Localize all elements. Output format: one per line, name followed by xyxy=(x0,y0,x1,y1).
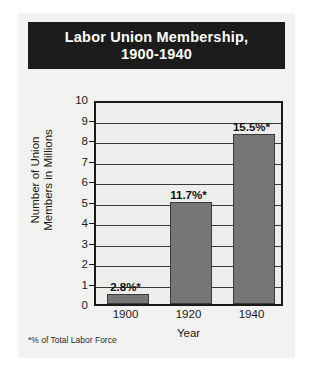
y-axis-tick-label: 7 xyxy=(70,157,88,169)
bar-value-label: 15.5%* xyxy=(220,121,283,133)
y-axis-tick-label: 1 xyxy=(70,280,88,292)
bar xyxy=(107,294,149,304)
bar-chart: Number of Union Members in Millions 1098… xyxy=(18,75,295,358)
y-axis-title-line-1: Number of Union xyxy=(29,120,42,240)
x-axis-tick-label: 1920 xyxy=(157,309,220,321)
y-axis-title-line-2: Members in Millions xyxy=(42,120,55,240)
y-axis-tick-label: 2 xyxy=(70,259,88,271)
x-axis-tick-label: 1940 xyxy=(220,309,283,321)
bar-series xyxy=(96,103,281,304)
x-axis-tick-label: 1900 xyxy=(94,309,157,321)
chart-title-line-1: Labor Union Membership, xyxy=(65,29,248,46)
chart-footnote: *% of Total Labor Force xyxy=(28,335,117,345)
y-axis-tick-label: 5 xyxy=(70,198,88,210)
bar xyxy=(170,202,212,305)
bar-value-label: 11.7%* xyxy=(157,189,220,201)
y-axis-tick-label: 6 xyxy=(70,177,88,189)
bar xyxy=(233,134,275,304)
y-axis-tick-label: 3 xyxy=(70,239,88,251)
chart-page: Labor Union Membership, 1900-1940 Number… xyxy=(0,0,312,369)
y-axis-title: Number of Union Members in Millions xyxy=(29,120,55,240)
chart-title-line-2: 1900-1940 xyxy=(121,46,192,63)
y-axis-tick-label: 9 xyxy=(70,116,88,128)
y-axis-tick-label: 10 xyxy=(70,95,88,107)
y-axis-tick-label: 8 xyxy=(70,136,88,148)
chart-card: Labor Union Membership, 1900-1940 Number… xyxy=(18,13,295,358)
chart-title-banner: Labor Union Membership, 1900-1940 xyxy=(28,22,285,69)
bar-value-label: 2.8%* xyxy=(94,281,157,293)
x-axis-title: Year xyxy=(94,327,283,339)
y-axis-tick-label: 4 xyxy=(70,218,88,230)
y-axis-tick-label: 0 xyxy=(70,300,88,312)
